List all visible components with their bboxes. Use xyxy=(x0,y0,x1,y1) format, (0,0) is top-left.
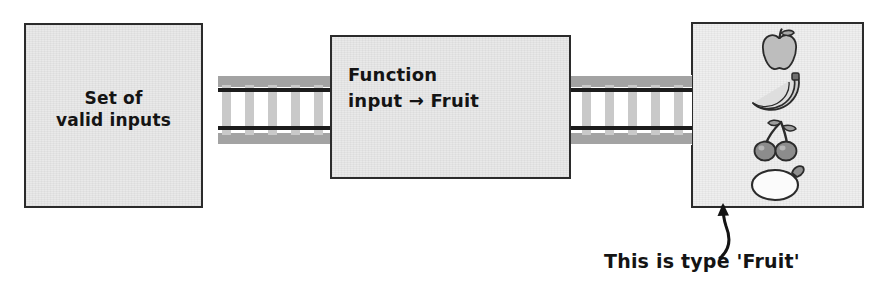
function-box-label: Function input → Fruit xyxy=(348,62,558,113)
lemon-icon xyxy=(749,161,809,203)
callout-caption: This is type 'Fruit' xyxy=(604,249,884,273)
inputs-box-label: Set of valid inputs xyxy=(24,88,203,132)
apple-icon xyxy=(755,28,803,72)
cherries-icon xyxy=(750,117,808,163)
diagram-canvas: Set of valid inputs xyxy=(0,0,888,292)
banana-icon xyxy=(748,72,810,114)
conveyor-track-right xyxy=(553,75,692,145)
